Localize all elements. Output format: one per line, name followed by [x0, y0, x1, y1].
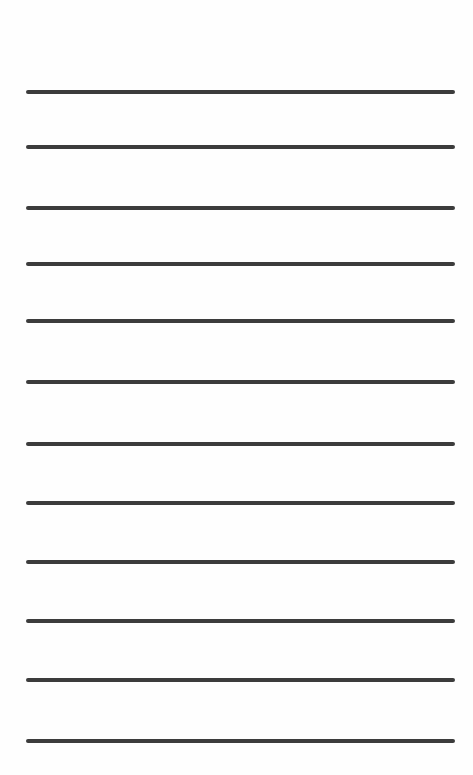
ruled-line: [26, 739, 455, 743]
ruled-line: [26, 380, 455, 384]
ruled-line: [26, 678, 455, 682]
ruled-line: [26, 442, 455, 446]
lined-page: [0, 0, 473, 775]
ruled-line: [26, 206, 455, 210]
ruled-line: [26, 501, 455, 505]
ruled-line: [26, 319, 455, 323]
ruled-line: [26, 619, 455, 623]
ruled-line: [26, 262, 455, 266]
ruled-line: [26, 90, 455, 94]
ruled-line: [26, 560, 455, 564]
ruled-line: [26, 145, 455, 149]
